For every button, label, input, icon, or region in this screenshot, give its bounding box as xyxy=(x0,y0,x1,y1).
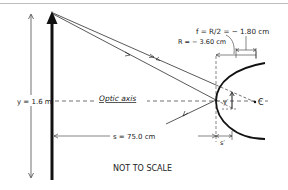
object-distance-label: s = 75.0 cm xyxy=(113,133,156,141)
radius-focal-dimensions: f = R/2 = − 1.80 cm R = − 3.60 cm xyxy=(178,27,269,59)
image-height-label: y′ xyxy=(223,98,229,106)
image-distance-label: s′ xyxy=(220,139,225,147)
ray-diagram: C y′ f = R/2 = − 1.80 cm xyxy=(0,0,288,190)
object-distance-dimension: s = 75.0 cm xyxy=(54,133,216,141)
image-distance-dimension: s′ xyxy=(216,131,232,147)
object-height-dimension xyxy=(16,14,50,178)
object-height-label: y = 1.6 m xyxy=(17,98,52,106)
image-arrow: y′ xyxy=(222,92,238,109)
radius-label: R = − 3.60 cm xyxy=(178,38,226,46)
center-label: C xyxy=(258,98,264,107)
center-of-curvature: C xyxy=(254,98,264,107)
focal-length-label: f = R/2 = − 1.80 cm xyxy=(196,27,269,36)
diagram-canvas: C y′ f = R/2 = − 1.80 cm xyxy=(0,0,288,190)
optic-axis-label: Optic axis xyxy=(99,94,136,103)
not-to-scale-note: NOT TO SCALE xyxy=(113,164,172,173)
